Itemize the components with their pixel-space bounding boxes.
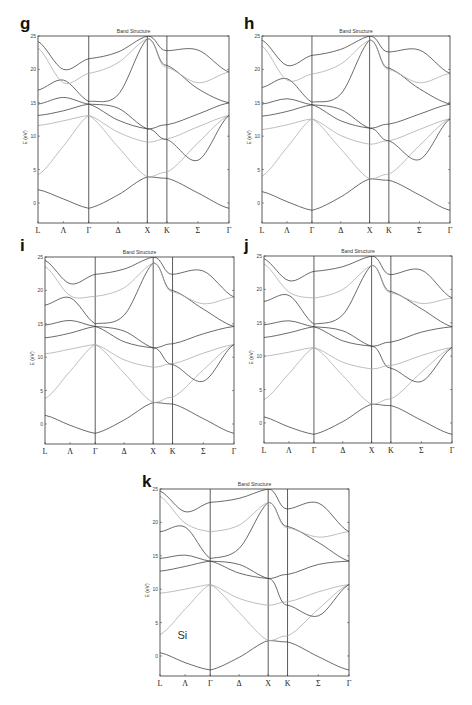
- x-tick-label: Δ: [237, 679, 242, 688]
- x-tick-label: K: [285, 679, 291, 688]
- band-line-band-3: [160, 585, 349, 606]
- y-tick-label: 15: [152, 553, 158, 559]
- band-line-band-7: [160, 496, 349, 537]
- band-line-band-6: [160, 502, 349, 561]
- x-tick-label: X: [265, 679, 271, 688]
- x-tick-label: Λ: [182, 679, 188, 688]
- y-tick-label: 5: [155, 620, 158, 626]
- x-tick-label: Γ: [347, 679, 352, 688]
- y-tick-label: 25: [152, 486, 158, 492]
- y-tick-label: 20: [152, 519, 158, 525]
- chart-title: Band Structure: [238, 481, 272, 487]
- y-tick-label: 0: [155, 653, 158, 659]
- band-line-band-5: [160, 555, 349, 578]
- x-tick-label: L: [158, 679, 163, 688]
- y-axis-label: E (eV): [144, 583, 150, 598]
- y-tick-label: 10: [152, 586, 158, 592]
- band-line-band-2: [160, 585, 349, 641]
- x-tick-label: Γ: [208, 679, 213, 688]
- material-annotation: Si: [177, 629, 187, 641]
- band-line-band-1: [160, 641, 349, 670]
- x-tick-label: Σ: [316, 679, 321, 688]
- band-plot-k: Band StructureE (eV)0510152025LΛΓΔXKΣΓSi: [0, 0, 472, 705]
